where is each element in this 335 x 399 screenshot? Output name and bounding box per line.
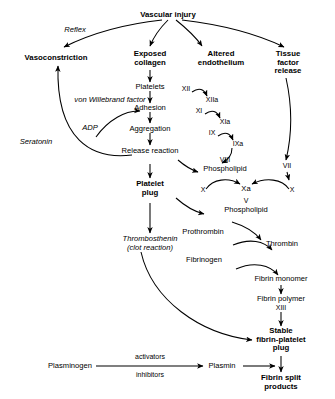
node-tissue-factor-release: Tissue factor release (275, 50, 302, 76)
arrow-injury-to-endothelium (176, 20, 202, 46)
coagulation-cascade-diagram: Vascular injury Reflex Vasoconstriction … (0, 0, 335, 399)
node-factor-xia: XIa (220, 118, 231, 126)
arrow-seratonin-to-vasoconstriction (58, 66, 132, 156)
node-aggregation: Aggregation (130, 125, 171, 134)
node-platelet-plug: Platelet plug (136, 180, 164, 197)
node-plasmin: Plasmin (208, 362, 235, 371)
node-prothrombin: Prothrombin (182, 228, 223, 237)
node-vascular-injury: Vascular injury (140, 11, 195, 20)
node-factor-xiia: XIIa (206, 96, 218, 104)
label-seratonin: Seratonin (20, 138, 53, 147)
arrow-vii-to-x-right (287, 172, 289, 180)
arrow-ix-to-ixa (218, 133, 233, 140)
node-factor-xi: XI (196, 107, 203, 115)
node-altered-endothelium: Altered endothelium (198, 50, 244, 67)
node-clot-reaction: (clot reaction) (127, 244, 173, 253)
arrow-x-left-to-xa (206, 180, 240, 189)
arrow-release-to-phospholipid-v (176, 198, 204, 214)
node-exposed-collagen: Exposed collagen (134, 50, 167, 67)
node-platelets: Platelets (135, 83, 164, 92)
node-factor-ixa: IXa (233, 140, 244, 148)
node-stable-fibrin-platelet-plug: Stable fibrin-platelet plug (256, 327, 305, 353)
arrow-injury-to-tissue-factor (182, 20, 284, 47)
arrow-clot-reaction-to-stable-plug (141, 252, 252, 340)
node-thrombin: Thrombin (266, 240, 298, 249)
node-factor-xa: Xa (241, 185, 250, 194)
node-plasminogen: Plasminogen (48, 362, 92, 371)
node-factor-v: V (244, 197, 249, 205)
label-activators: activators (135, 353, 165, 361)
node-factor-xiii: XIII (276, 304, 287, 312)
arrow-xi-to-xia (205, 111, 220, 118)
node-factor-vii: VII (283, 162, 292, 170)
node-vasoconstriction: Vasoconstriction (25, 54, 88, 63)
node-adhesion: Adhesion (134, 104, 166, 113)
node-factor-x-left: X (201, 186, 206, 194)
arrow-x-right-to-xa (252, 180, 289, 189)
node-release-reaction: Release reaction (122, 147, 179, 156)
node-phospholipid-viii: Phospholipid (203, 165, 247, 174)
label-reflex: Reflex (64, 26, 86, 35)
node-factor-xii: XII (182, 85, 191, 93)
arrow-xii-to-xiia (192, 89, 207, 96)
node-fibrin-polymer: Fibrin polymer (257, 295, 305, 304)
node-factor-viii: VIII (220, 156, 231, 164)
node-factor-ix: IX (209, 129, 216, 137)
node-fibrin-split-products: Fibrin split products (261, 374, 301, 391)
node-factor-x-right: X (290, 186, 295, 194)
arrow-release-to-phospholipid-viii (178, 160, 198, 172)
node-fibrin-monomer: Fibrin monomer (254, 275, 307, 284)
label-inhibitors: inhibitors (136, 371, 164, 379)
node-fibrinogen: Fibrinogen (186, 256, 222, 265)
label-adp: ADP (82, 124, 98, 133)
arrow-phospholipid-to-thrombin (232, 222, 261, 240)
node-phospholipid-v: Phospholipid (224, 206, 268, 215)
arrow-injury-to-collagen (150, 20, 168, 46)
arrow-tissue-factor-to-vii (286, 78, 291, 160)
